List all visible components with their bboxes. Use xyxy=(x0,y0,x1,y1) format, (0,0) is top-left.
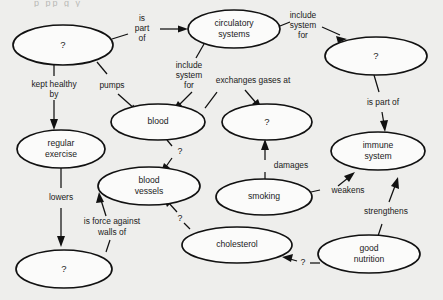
arrowhead xyxy=(178,26,188,33)
node-label-line2: systems xyxy=(218,29,250,39)
link-label: kept healthy xyxy=(31,79,77,89)
link-label: exchanges gases at xyxy=(216,75,291,85)
link-label: part xyxy=(135,23,150,33)
link-exercise-lowers-bloodpressure: lowers xyxy=(49,168,73,247)
node-label-line2: system xyxy=(364,151,391,161)
link-label: is xyxy=(139,13,145,23)
link-label: damages xyxy=(274,160,308,170)
node-good-nutrition[interactable]: good nutrition xyxy=(318,235,420,273)
link-line xyxy=(205,92,217,108)
node-circulatory-systems[interactable]: circulatory systems xyxy=(188,10,280,48)
link-line xyxy=(374,75,379,92)
link-label: is force against xyxy=(84,216,141,226)
link-label: of xyxy=(139,33,147,43)
link-nutrition-strengthens-immune: strengthens xyxy=(364,177,408,236)
node-immune-system[interactable]: immune system xyxy=(331,132,425,170)
link-label: walls of xyxy=(97,227,127,237)
link-line xyxy=(167,140,172,146)
node-blood-vessels[interactable]: blood vessels xyxy=(98,167,200,205)
link-label: by xyxy=(50,89,60,99)
node-smoking[interactable]: smoking xyxy=(216,179,312,215)
node-label-line2: vessels xyxy=(135,186,164,196)
link-label: for xyxy=(184,80,194,90)
node-label: ? xyxy=(60,39,65,50)
link-heart-kept-healthy-by-exercise: kept healthy by xyxy=(31,65,77,130)
link-label: system xyxy=(176,70,203,80)
link-label: lowers xyxy=(49,192,73,202)
node-label-line2: nutrition xyxy=(354,254,385,264)
arrowhead xyxy=(50,119,58,130)
concept-map-canvas: p pp g y is part of pumps kept healthy b… xyxy=(0,0,443,300)
node-regular-exercise[interactable]: regular exercise xyxy=(17,130,105,168)
node-heart[interactable]: ? xyxy=(13,25,113,65)
link-line xyxy=(389,186,395,202)
link-label: pumps xyxy=(99,80,124,90)
node-cholesterol[interactable]: cholesterol xyxy=(182,227,292,263)
concept-map-svg: is part of pumps kept healthy by include… xyxy=(0,0,443,300)
link-label: for xyxy=(298,30,308,40)
node-respiratory-unknown[interactable]: ? xyxy=(325,37,427,75)
node-label: cholesterol xyxy=(216,239,258,249)
node-lungs-unknown[interactable]: ? xyxy=(222,104,312,140)
link-line xyxy=(196,44,204,58)
link-label: ? xyxy=(301,257,306,267)
arrowhead xyxy=(57,236,65,247)
link-nutrition-unknown-cholesterol: ? xyxy=(282,254,320,267)
link-circulatory-include-system-for-respiratory: include system for xyxy=(280,10,347,43)
link-line xyxy=(311,190,320,192)
node-label: ? xyxy=(264,116,269,127)
link-label: strengthens xyxy=(364,206,408,216)
link-circulatory-include-system-for-blood: include system for xyxy=(172,44,204,112)
link-line xyxy=(322,27,340,35)
link-label: include xyxy=(176,60,203,70)
link-heart-is-part-of-circulatory: is part of xyxy=(112,13,188,43)
node-label-line2: exercise xyxy=(45,149,77,159)
link-label: ? xyxy=(178,146,183,156)
link-label: system xyxy=(290,20,317,30)
node-label-line1: blood xyxy=(138,175,159,185)
link-respiratory-is-part-of-immune: is part of xyxy=(367,75,400,132)
node-label-line1: regular xyxy=(48,138,75,148)
link-line xyxy=(106,240,110,252)
link-line xyxy=(280,22,290,26)
node-blood-pressure-unknown[interactable]: ? xyxy=(16,250,112,288)
link-smoking-weakens-immune: weakens xyxy=(311,172,365,195)
link-label: ? xyxy=(178,213,183,223)
node-label: blood xyxy=(147,116,168,126)
link-label: include xyxy=(290,10,317,20)
node-label: ? xyxy=(373,50,378,61)
link-smoking-damages-lungs: damages xyxy=(261,139,308,179)
arrowhead xyxy=(391,177,399,189)
node-label-line1: immune xyxy=(363,140,394,150)
node-label: ? xyxy=(61,263,66,274)
link-line xyxy=(112,34,128,39)
link-label: is part of xyxy=(367,97,400,107)
node-label-line1: circulatory xyxy=(214,18,254,28)
node-blood[interactable]: blood xyxy=(111,104,205,140)
link-label: weakens xyxy=(330,185,364,195)
arrowhead xyxy=(380,120,388,132)
node-label: smoking xyxy=(248,191,280,201)
cut-off-title-fragment: p pp g y xyxy=(34,0,162,7)
link-line xyxy=(101,200,106,216)
link-line xyxy=(184,223,190,229)
node-label-line1: good xyxy=(359,243,378,253)
link-line xyxy=(97,62,107,74)
link-line xyxy=(378,224,382,236)
